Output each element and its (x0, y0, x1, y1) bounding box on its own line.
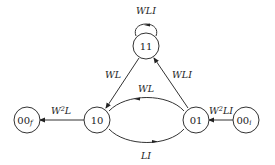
edge-01-to-11 (154, 58, 188, 108)
edge-label-10-to-00f: W2L (51, 105, 71, 116)
svg-text:00i: 00i (237, 115, 252, 128)
edge-01-to-10-upper (109, 98, 184, 112)
svg-text:11: 11 (140, 41, 153, 52)
edge-label-01-to-10: WL (138, 83, 154, 94)
node-01: 01 (183, 107, 209, 133)
edge-label-00i-to-01: W2LI (209, 105, 233, 116)
node-11: 11 (133, 33, 159, 59)
node-00f: 00f (14, 107, 40, 133)
svg-text:01: 01 (190, 115, 203, 126)
state-diagram: WLI WL WLI WL LI W2LI W2L 11 10 01 00i 0… (0, 0, 275, 165)
arrow-icon (152, 140, 158, 143)
node-00i: 00i (233, 107, 259, 133)
edge-label-11-self: WLI (136, 5, 156, 16)
svg-text:10: 10 (91, 115, 104, 126)
edge-label-01-to-11: WLI (172, 69, 192, 80)
edge-10-to-01-lower (109, 129, 184, 143)
node-10: 10 (84, 107, 110, 133)
edge-label-11-to-10: WL (105, 69, 121, 80)
edge-11-to-10 (106, 58, 139, 108)
edge-label-10-to-01: LI (140, 150, 151, 161)
